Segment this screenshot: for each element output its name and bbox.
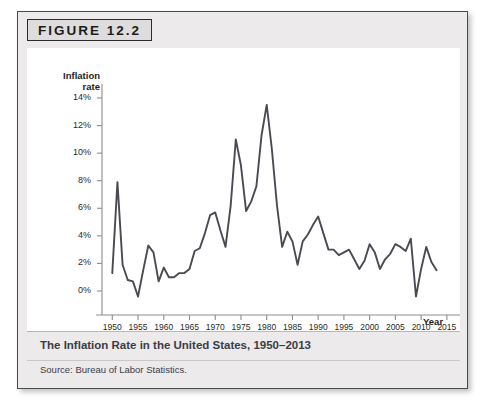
- y-axis-title-line-1: Inflation: [48, 70, 100, 81]
- figure-caption-title: The Inflation Rate in the United States,…: [40, 339, 311, 351]
- y-tick-label: 6%: [61, 202, 91, 212]
- y-tick-label: 8%: [61, 175, 91, 185]
- y-tick-label: 12%: [61, 120, 91, 130]
- figure-source-note: Source: Bureau of Labor Statistics.: [40, 364, 187, 375]
- y-tick-label: 4%: [61, 230, 91, 240]
- figure-number-box: FIGURE 12.2: [27, 19, 152, 41]
- y-tick-label: 10%: [61, 147, 91, 157]
- y-tick-label: 14%: [61, 92, 91, 102]
- data-line-group: [112, 105, 436, 297]
- y-tick-label: 2%: [61, 257, 91, 267]
- axes-group: [96, 84, 460, 315]
- y-tick-label: 0%: [61, 285, 91, 295]
- y-axis-title-line-2: rate: [48, 81, 100, 92]
- figure-number-label: FIGURE 12.2: [38, 23, 141, 38]
- chart-panel: Inflation rate Year 0%2%4%6%8%10%12%14% …: [27, 48, 460, 331]
- caption-mid-divider: [27, 360, 460, 361]
- y-axis-title: Inflation rate: [48, 70, 100, 92]
- axis-ticks-group: [97, 98, 447, 320]
- figure-root: FIGURE 12.2 Inflation rate Year 0%2%4%6%…: [0, 0, 490, 401]
- chart-plot-area: Inflation rate Year 0%2%4%6%8%10%12%14% …: [27, 48, 460, 331]
- figure-caption-band: The Inflation Rate in the United States,…: [27, 331, 460, 381]
- figure-card: FIGURE 12.2 Inflation rate Year 0%2%4%6%…: [17, 11, 468, 389]
- caption-top-divider: [27, 331, 460, 332]
